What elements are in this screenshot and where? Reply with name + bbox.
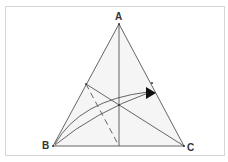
point-on-AB (85, 83, 87, 85)
vertex-label-B: B (42, 140, 49, 151)
point-A (118, 23, 120, 25)
triangle-diagram: A B C (0, 0, 228, 162)
vertex-label-A: A (115, 11, 122, 22)
point-on-AC (151, 82, 153, 84)
point-intersection (118, 104, 120, 106)
point-C (183, 145, 185, 147)
vertex-label-C: C (187, 142, 194, 153)
triangle-fill (53, 24, 184, 146)
point-B (52, 145, 54, 147)
